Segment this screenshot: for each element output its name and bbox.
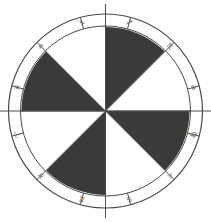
- zodiac-wheel-canvas: ♐♏♎♍♌♋♊♉♈♓♒♑: [0, 0, 211, 222]
- wedge-spoke-layer: [21, 26, 191, 196]
- zodiac-wheel-figure: ♐♏♎♍♌♋♊♉♈♓♒♑: [0, 0, 211, 222]
